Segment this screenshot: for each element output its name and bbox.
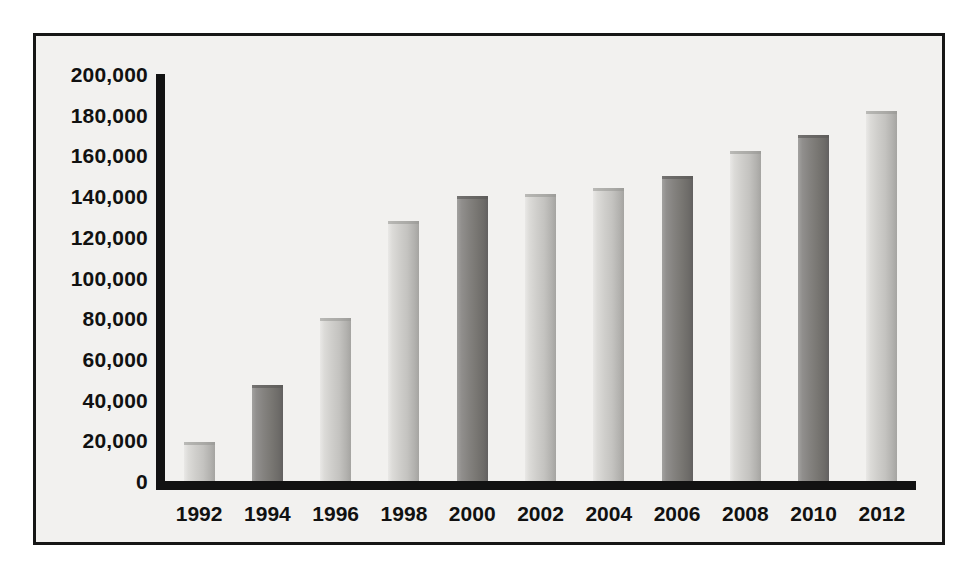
bar-2006[interactable] bbox=[662, 176, 693, 481]
bar-2012[interactable] bbox=[866, 111, 897, 481]
bar-top-cap bbox=[593, 188, 624, 191]
x-axis-tick-label: 2010 bbox=[790, 503, 837, 524]
bar-1998[interactable] bbox=[388, 221, 419, 481]
x-axis-tick-label: 2002 bbox=[517, 503, 564, 524]
bar-fill bbox=[593, 188, 624, 481]
y-axis-tick-label: 0 bbox=[44, 471, 148, 492]
bar-2004[interactable] bbox=[593, 188, 624, 481]
x-axis-tick-label: 2008 bbox=[722, 503, 769, 524]
y-axis-tick-label: 180,000 bbox=[44, 104, 148, 125]
bar-1996[interactable] bbox=[320, 318, 351, 481]
x-axis-tick-label: 1996 bbox=[312, 503, 359, 524]
y-axis-tick-label: 120,000 bbox=[44, 226, 148, 247]
y-axis-line bbox=[156, 74, 165, 490]
x-axis-tick-label: 2012 bbox=[859, 503, 906, 524]
bar-fill bbox=[662, 176, 693, 481]
bar-2002[interactable] bbox=[525, 194, 556, 481]
y-axis-tick-label: 100,000 bbox=[44, 267, 148, 288]
bar-top-cap bbox=[730, 151, 761, 154]
y-axis-tick-labels: 020,00040,00060,00080,000100,000120,0001… bbox=[44, 36, 148, 542]
bar-fill bbox=[457, 196, 488, 481]
x-axis-tick-label: 2006 bbox=[654, 503, 701, 524]
y-axis-tick-label: 60,000 bbox=[44, 348, 148, 369]
y-axis-tick-label: 20,000 bbox=[44, 430, 148, 451]
chart-page: 020,00040,00060,00080,000100,000120,0001… bbox=[0, 0, 973, 572]
plot-area: 020,00040,00060,00080,000100,000120,0001… bbox=[36, 36, 942, 542]
bar-top-cap bbox=[184, 442, 215, 445]
bar-fill bbox=[525, 194, 556, 481]
chart-frame: 020,00040,00060,00080,000100,000120,0001… bbox=[33, 33, 945, 545]
x-axis-tick-label: 1994 bbox=[244, 503, 291, 524]
x-axis-tick-label: 1998 bbox=[381, 503, 428, 524]
bar-2008[interactable] bbox=[730, 151, 761, 481]
bar-top-cap bbox=[457, 196, 488, 199]
bar-fill bbox=[252, 385, 283, 481]
bar-top-cap bbox=[388, 221, 419, 224]
bar-top-cap bbox=[866, 111, 897, 114]
bar-fill bbox=[798, 135, 829, 481]
bar-fill bbox=[866, 111, 897, 481]
y-axis-tick-label: 160,000 bbox=[44, 145, 148, 166]
y-axis-tick-label: 80,000 bbox=[44, 308, 148, 329]
x-axis-line bbox=[156, 481, 916, 490]
y-axis-tick-label: 40,000 bbox=[44, 389, 148, 410]
bar-top-cap bbox=[525, 194, 556, 197]
x-axis-tick-label: 2000 bbox=[449, 503, 496, 524]
bar-1994[interactable] bbox=[252, 385, 283, 481]
bar-top-cap bbox=[798, 135, 829, 138]
x-axis-tick-label: 1992 bbox=[176, 503, 223, 524]
bar-fill bbox=[184, 442, 215, 481]
bar-1992[interactable] bbox=[184, 442, 215, 481]
bar-fill bbox=[320, 318, 351, 481]
y-axis-tick-label: 140,000 bbox=[44, 186, 148, 207]
x-axis-tick-label: 2004 bbox=[585, 503, 632, 524]
bar-fill bbox=[388, 221, 419, 481]
bar-2000[interactable] bbox=[457, 196, 488, 481]
bar-top-cap bbox=[320, 318, 351, 321]
bar-top-cap bbox=[252, 385, 283, 388]
bar-fill bbox=[730, 151, 761, 481]
bar-top-cap bbox=[662, 176, 693, 179]
y-axis-tick-label: 200,000 bbox=[44, 64, 148, 85]
bar-2010[interactable] bbox=[798, 135, 829, 481]
